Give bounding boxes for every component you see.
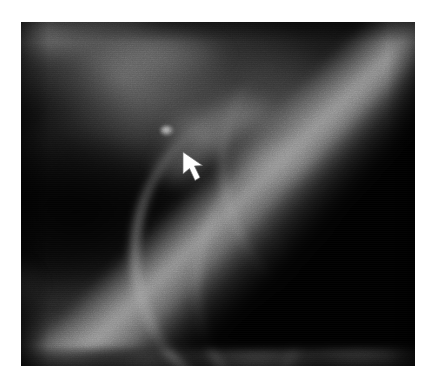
- film-grain-texture: [21, 22, 415, 366]
- indicated-lesion: [160, 125, 174, 136]
- fibrous-arc-band-4: [177, 22, 415, 359]
- fibrous-arc-band-3: [32, 165, 331, 366]
- scanline-texture: [21, 22, 415, 366]
- lower-trabecular-texture: [21, 22, 415, 366]
- fibrous-arc-band-1: [90, 57, 415, 366]
- plate-vignette: [21, 22, 415, 366]
- figure-page: [0, 0, 433, 384]
- tissue-base-layer: [21, 22, 415, 366]
- central-glandular-cluster: [21, 22, 415, 366]
- lesion-pointer-arrow: [178, 148, 212, 186]
- upper-left-glandular-swirl: [21, 22, 415, 366]
- central-dark-fat-pocket: [21, 22, 415, 366]
- mammogram-radiograph: [21, 22, 415, 366]
- air-corner: [29, 22, 415, 351]
- caption-area: [0, 366, 433, 384]
- skin-line-band: [21, 22, 415, 351]
